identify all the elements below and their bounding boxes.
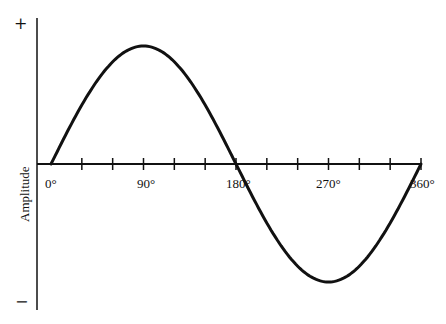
tick-label-0: 0° <box>45 176 57 191</box>
tick-label-360: 360° <box>410 176 435 191</box>
tick-label-90: 90° <box>137 176 155 191</box>
plus-label: + <box>14 14 27 33</box>
minus-label: − <box>15 292 28 311</box>
y-axis-label: Amplitude <box>17 166 32 222</box>
tick-label-180: 180° <box>226 176 251 191</box>
tick-label-270: 270° <box>316 176 341 191</box>
sine-wave-diagram: + − Amplitude 0° 90° 180° 270° 360° <box>0 0 446 324</box>
